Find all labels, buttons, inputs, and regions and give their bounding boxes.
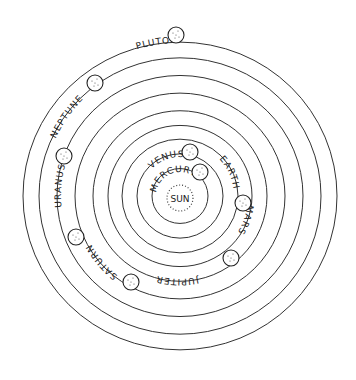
planet-neptune bbox=[87, 75, 103, 91]
planet-label-saturn: SATURN bbox=[84, 242, 119, 281]
planet-label-neptune: NEPTUNE bbox=[48, 93, 85, 140]
planet-label-jupiter: JUPITER bbox=[155, 274, 201, 287]
planet-jupiter bbox=[123, 274, 139, 290]
planet-earth bbox=[235, 195, 251, 211]
sun-label: SUN bbox=[170, 194, 189, 204]
planet-labels: MERCURYVENUSEARTHMARSJUPITERSATURNURANUS… bbox=[48, 35, 255, 287]
solar-system-diagram: SUN MERCURYVENUSEARTHMARSJUPITERSATURNUR… bbox=[0, 0, 356, 380]
planet-pluto bbox=[168, 27, 184, 43]
planet-saturn bbox=[68, 229, 84, 245]
planet-mars bbox=[223, 250, 239, 266]
sun: SUN bbox=[167, 185, 193, 211]
planet-uranus bbox=[56, 148, 72, 164]
planet-venus bbox=[182, 144, 198, 160]
planet-label-pluto: PLUTO bbox=[135, 35, 171, 51]
planet-label-uranus: URANUS bbox=[53, 162, 67, 208]
planet-label-mercury: MERCURY bbox=[148, 164, 199, 193]
planet-mercury bbox=[192, 164, 208, 180]
